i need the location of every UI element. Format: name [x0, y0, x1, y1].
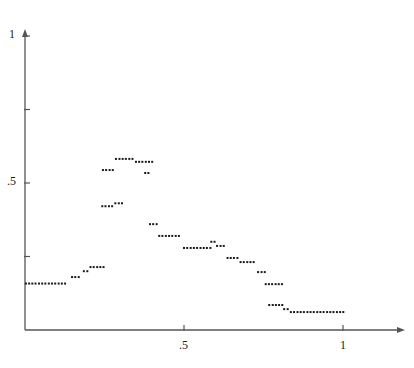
data-point	[86, 270, 88, 272]
data-point	[121, 202, 123, 204]
data-point	[145, 161, 147, 163]
data-point	[34, 283, 36, 285]
data-point	[209, 247, 211, 249]
data-point	[278, 283, 280, 285]
data-point	[297, 311, 299, 313]
data-point	[214, 241, 216, 243]
data-point	[319, 311, 321, 313]
data-point	[115, 158, 117, 160]
data-point	[131, 158, 133, 160]
data-point	[108, 205, 110, 207]
data-point	[151, 161, 153, 163]
data-point	[144, 172, 146, 174]
data-point	[186, 247, 188, 249]
data-point	[303, 311, 305, 313]
x-axis-tick-label-half: .5	[179, 338, 188, 353]
data-point	[223, 245, 225, 247]
data-point	[122, 158, 124, 160]
data-point	[236, 257, 238, 259]
data-point	[165, 235, 167, 237]
data-point	[210, 241, 212, 243]
data-point	[83, 270, 85, 272]
y-axis-tick-label-half: .5	[7, 174, 16, 189]
data-point	[128, 158, 130, 160]
data-point	[326, 311, 328, 313]
data-point	[233, 257, 235, 259]
data-point	[104, 205, 106, 207]
data-point	[64, 283, 66, 285]
data-point	[293, 311, 295, 313]
data-point	[58, 283, 60, 285]
x-axis-arrow-icon	[397, 327, 405, 333]
data-point	[74, 276, 76, 278]
data-point	[249, 261, 251, 263]
data-point	[206, 247, 208, 249]
data-point	[336, 311, 338, 313]
data-point	[48, 283, 50, 285]
data-point	[105, 169, 107, 171]
data-point	[300, 311, 302, 313]
axis-ticks-group	[24, 36, 343, 331]
data-point	[264, 271, 266, 273]
data-point	[111, 205, 113, 207]
data-point	[31, 283, 33, 285]
data-point	[313, 311, 315, 313]
data-point	[178, 235, 180, 237]
data-point	[147, 172, 149, 174]
data-point	[125, 158, 127, 160]
data-point	[287, 308, 289, 310]
data-point	[78, 276, 80, 278]
data-point	[246, 261, 248, 263]
data-point	[203, 247, 205, 249]
data-point	[61, 283, 63, 285]
data-point	[278, 304, 280, 306]
data-point	[25, 283, 27, 285]
data-point	[90, 266, 92, 268]
data-point	[38, 283, 40, 285]
axes-group	[22, 29, 405, 333]
data-point	[190, 247, 192, 249]
data-point	[283, 308, 285, 310]
data-point	[44, 283, 46, 285]
data-point	[316, 311, 318, 313]
data-point	[230, 257, 232, 259]
data-point	[168, 235, 170, 237]
data-point	[103, 266, 105, 268]
data-point	[41, 283, 43, 285]
data-point	[152, 223, 154, 225]
data-point	[93, 266, 95, 268]
data-point	[156, 223, 158, 225]
data-point	[253, 261, 255, 263]
data-point	[148, 161, 150, 163]
data-point	[171, 235, 173, 237]
data-point	[290, 311, 292, 313]
data-points-group	[25, 158, 344, 313]
data-point	[200, 247, 202, 249]
data-point	[118, 158, 120, 160]
data-point	[99, 266, 101, 268]
data-point	[216, 245, 218, 247]
data-point	[149, 223, 151, 225]
data-point	[265, 283, 267, 285]
data-point	[109, 169, 111, 171]
data-point	[272, 304, 274, 306]
data-point	[138, 161, 140, 163]
y-axis-tick-label-1: 1	[9, 27, 15, 42]
data-point	[183, 247, 185, 249]
data-point	[329, 311, 331, 313]
data-point	[339, 311, 341, 313]
data-point	[118, 202, 120, 204]
data-point	[271, 283, 273, 285]
data-point	[193, 247, 195, 249]
data-point	[227, 257, 229, 259]
data-point	[275, 304, 277, 306]
data-point	[158, 235, 160, 237]
data-point	[281, 283, 283, 285]
data-point	[96, 266, 98, 268]
data-point	[268, 283, 270, 285]
data-point	[102, 169, 104, 171]
data-point	[196, 247, 198, 249]
data-point	[342, 311, 344, 313]
data-point	[310, 311, 312, 313]
data-point	[175, 235, 177, 237]
